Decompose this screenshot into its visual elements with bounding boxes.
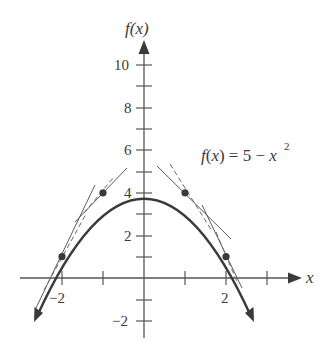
function-label-exponent: 2 bbox=[284, 140, 290, 152]
function-label: f(x) = 5 − x 2 bbox=[201, 140, 290, 165]
y-axis-arrow-icon bbox=[139, 40, 150, 54]
x-tick-label-neg2: −2 bbox=[49, 290, 65, 306]
function-label-text: f(x) = 5 − x bbox=[201, 146, 277, 165]
x-tick-label-2: 2 bbox=[221, 290, 229, 306]
tangent-line-at-2 bbox=[202, 205, 242, 288]
y-tick-label-neg2: −2 bbox=[112, 313, 128, 329]
graph-canvas: x −2 2 f(x) 10 8 bbox=[0, 0, 327, 354]
y-axis: f(x) 10 8 6 4 2 −2 bbox=[112, 19, 152, 338]
point-at-2 bbox=[222, 253, 229, 260]
tangent-lines bbox=[36, 166, 242, 308]
point-at-neg2 bbox=[58, 253, 65, 260]
y-tick-label-6: 6 bbox=[124, 142, 132, 158]
point-at-neg1 bbox=[99, 189, 106, 196]
x-axis-arrow-icon bbox=[288, 273, 302, 284]
y-tick-label-2: 2 bbox=[124, 228, 132, 244]
y-tick-label-4: 4 bbox=[124, 185, 132, 201]
x-axis: x −2 2 bbox=[20, 268, 314, 306]
tangent-line-at-neg2 bbox=[36, 185, 95, 308]
curve-left-arrow-icon bbox=[34, 307, 43, 322]
curve-right-arrow-icon bbox=[245, 307, 254, 322]
point-at-1 bbox=[181, 189, 188, 196]
y-axis-label: f(x) bbox=[125, 19, 149, 38]
x-axis-label: x bbox=[305, 268, 314, 287]
function-graph-figure: x −2 2 f(x) 10 8 bbox=[0, 0, 327, 354]
y-tick-label-10: 10 bbox=[114, 57, 129, 73]
tangent-line-at-1 bbox=[157, 166, 231, 239]
y-tick-label-8: 8 bbox=[124, 100, 132, 116]
secant-lines bbox=[44, 164, 238, 290]
